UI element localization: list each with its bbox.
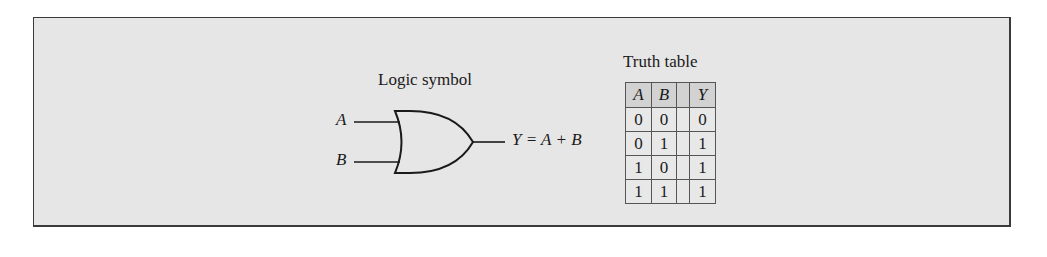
cell-y: 0 <box>690 108 716 132</box>
cell-b: 1 <box>652 180 677 204</box>
table-row: 0 0 0 <box>626 108 716 132</box>
cell-spacer <box>677 132 690 156</box>
cell-a: 0 <box>626 132 652 156</box>
table-row: 1 0 1 <box>626 156 716 180</box>
cell-spacer <box>677 108 690 132</box>
table-row: 0 1 1 <box>626 132 716 156</box>
truth-table-header: A B Y <box>626 83 716 108</box>
truth-table-title: Truth table <box>623 52 697 72</box>
cell-b: 0 <box>652 108 677 132</box>
cell-a: 1 <box>626 156 652 180</box>
cell-y: 1 <box>690 180 716 204</box>
input-b-label: B <box>336 150 346 170</box>
output-expression: Y = A + B <box>512 130 582 150</box>
cell-b: 1 <box>652 132 677 156</box>
header-b: B <box>652 83 677 108</box>
or-gate-icon <box>0 0 1047 257</box>
header-spacer <box>677 83 690 108</box>
header-a: A <box>626 83 652 108</box>
table-row: 1 1 1 <box>626 180 716 204</box>
cell-spacer <box>677 156 690 180</box>
header-y: Y <box>690 83 716 108</box>
cell-a: 1 <box>626 180 652 204</box>
cell-b: 0 <box>652 156 677 180</box>
input-a-label: A <box>336 110 346 130</box>
cell-a: 0 <box>626 108 652 132</box>
cell-y: 1 <box>690 156 716 180</box>
cell-spacer <box>677 180 690 204</box>
cell-y: 1 <box>690 132 716 156</box>
truth-table: A B Y 0 0 0 0 1 1 1 0 1 1 1 1 <box>625 82 716 204</box>
